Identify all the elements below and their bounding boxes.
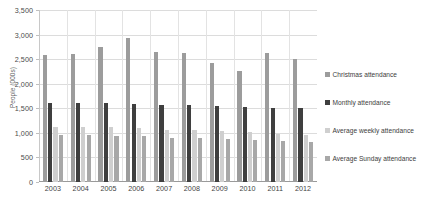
bar bbox=[154, 52, 158, 182]
bar bbox=[237, 71, 241, 182]
plot-area bbox=[39, 10, 317, 182]
bar bbox=[281, 141, 285, 182]
bar bbox=[87, 135, 91, 182]
bar-group bbox=[150, 10, 178, 182]
legend-swatch-icon bbox=[325, 100, 330, 105]
x-axis-tick-label: 2003 bbox=[39, 184, 67, 193]
bar bbox=[81, 127, 85, 182]
x-axis-tick-label: 2012 bbox=[289, 184, 317, 193]
x-axis-tick-label: 2006 bbox=[122, 184, 150, 193]
bar bbox=[220, 131, 224, 182]
bar-groups bbox=[39, 10, 317, 182]
y-axis-tick-label: 500 bbox=[21, 153, 33, 162]
x-axis-tick-label: 2004 bbox=[67, 184, 95, 193]
legend-label: Christmas attendance bbox=[333, 71, 398, 78]
bar bbox=[187, 105, 191, 182]
bar bbox=[192, 130, 196, 182]
bar bbox=[43, 55, 47, 182]
bar-group bbox=[234, 10, 262, 182]
x-axis-tick-label: 2010 bbox=[234, 184, 262, 193]
y-axis-tick-label: 0 bbox=[29, 178, 33, 187]
x-axis-tick-labels: 2003200420052006200720082009201020112012 bbox=[39, 184, 317, 193]
bar-group bbox=[261, 10, 289, 182]
chart-title-clipped bbox=[0, 0, 436, 3]
bar-group bbox=[39, 10, 67, 182]
bar bbox=[276, 134, 280, 182]
bar bbox=[182, 53, 186, 182]
bar bbox=[165, 130, 169, 182]
x-axis-tick-label: 2009 bbox=[206, 184, 234, 193]
x-axis-tick-label: 2007 bbox=[150, 184, 178, 193]
bar bbox=[198, 138, 202, 182]
legend-label: Average Sunday attendance bbox=[333, 155, 417, 162]
bar bbox=[98, 47, 102, 182]
bar bbox=[137, 128, 141, 182]
bar bbox=[126, 38, 130, 182]
legend-label: Average weekly attendance bbox=[333, 127, 414, 134]
bar bbox=[309, 142, 313, 182]
y-axis-tick-label: 3,000 bbox=[15, 30, 33, 39]
bar bbox=[104, 103, 108, 182]
x-axis-tick-label: 2011 bbox=[261, 184, 289, 193]
y-axis-tick-labels: 3,5003,0002,5002,0001,5001,0005000 bbox=[0, 0, 36, 210]
bar bbox=[304, 135, 308, 182]
bar-group bbox=[178, 10, 206, 182]
bar bbox=[215, 106, 219, 182]
legend-swatch-icon bbox=[325, 156, 330, 161]
bar bbox=[265, 53, 269, 182]
legend-item[interactable]: Christmas attendance bbox=[325, 60, 436, 88]
bar bbox=[271, 108, 275, 182]
bar bbox=[53, 127, 57, 182]
y-axis-tick-label: 2,000 bbox=[15, 79, 33, 88]
y-axis-tick-label: 3,500 bbox=[15, 6, 33, 15]
bar-group bbox=[206, 10, 234, 182]
bar-group bbox=[95, 10, 123, 182]
bar bbox=[59, 135, 63, 182]
bar bbox=[48, 103, 52, 182]
bar-chart: People (000s) 3,5003,0002,5002,0001,5001… bbox=[0, 0, 436, 210]
bar-group bbox=[289, 10, 317, 182]
bar bbox=[248, 132, 252, 182]
legend-item[interactable]: Average Sunday attendance bbox=[325, 144, 436, 172]
bar bbox=[114, 136, 118, 182]
y-axis-tick-label: 2,500 bbox=[15, 55, 33, 64]
bar bbox=[109, 127, 113, 182]
legend-item[interactable]: Monthly attendance bbox=[325, 88, 436, 116]
bar bbox=[298, 108, 302, 182]
bar bbox=[243, 107, 247, 182]
bar bbox=[159, 105, 163, 182]
x-axis-tick-label: 2005 bbox=[95, 184, 123, 193]
y-axis-tick-label: 1,500 bbox=[15, 104, 33, 113]
y-axis-tick-label: 1,000 bbox=[15, 128, 33, 137]
legend-item[interactable]: Average weekly attendance bbox=[325, 116, 436, 144]
bar bbox=[170, 138, 174, 182]
y-axis-tick-mark bbox=[36, 182, 39, 183]
bar bbox=[253, 140, 257, 182]
legend-swatch-icon bbox=[325, 72, 330, 77]
bar bbox=[76, 103, 80, 182]
bar-group bbox=[122, 10, 150, 182]
legend-label: Monthly attendance bbox=[333, 99, 391, 106]
chart-legend: Christmas attendanceMonthly attendanceAv… bbox=[325, 60, 436, 172]
bar-group bbox=[67, 10, 95, 182]
bar bbox=[142, 136, 146, 182]
bar bbox=[293, 59, 297, 182]
bar bbox=[210, 63, 214, 182]
x-axis-tick-label: 2008 bbox=[178, 184, 206, 193]
legend-swatch-icon bbox=[325, 128, 330, 133]
bar bbox=[132, 104, 136, 182]
bar bbox=[226, 139, 230, 182]
bar bbox=[71, 54, 75, 182]
